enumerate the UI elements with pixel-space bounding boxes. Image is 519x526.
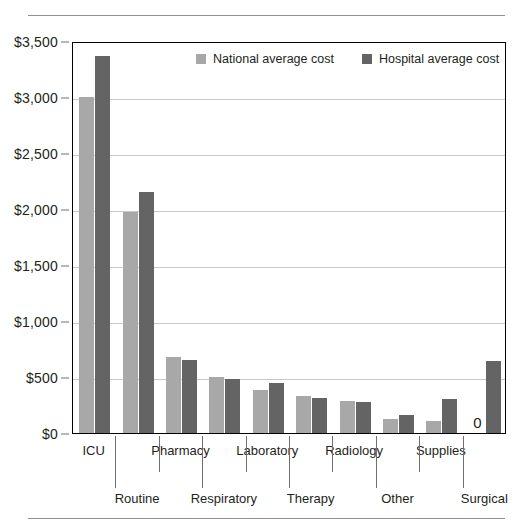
y-axis-tick-mark: [61, 42, 69, 43]
hospital-swatch-icon: [362, 54, 372, 64]
x-axis-label-surgical: Surgical: [461, 491, 508, 506]
gridline: [73, 155, 505, 156]
bar-radiology-hospital: [356, 402, 371, 433]
x-axis-label-other: Other: [381, 491, 414, 506]
bar-icu-hospital: [95, 56, 110, 433]
x-axis-label-routine: Routine: [115, 491, 160, 506]
y-axis-tick-label: $2,500: [14, 146, 58, 162]
x-axis-label-respiratory: Respiratory: [191, 491, 257, 506]
x-axis-labels: ICURoutinePharmacyRespiratoryLaboratoryT…: [0, 434, 519, 526]
x-axis-leader-line: [115, 436, 116, 488]
y-axis-tick-label: $3,000: [14, 90, 58, 106]
bar-routine-hospital: [139, 192, 154, 433]
plot-area: 0: [72, 42, 506, 434]
x-axis-leader-line: [159, 436, 160, 472]
bar-therapy-national: [296, 396, 311, 433]
y-axis-tick-label: $3,500: [14, 34, 58, 50]
bar-respiratory-hospital: [225, 379, 240, 433]
x-axis-leader-line: [202, 436, 203, 488]
y-axis-tick-mark: [61, 378, 69, 379]
y-axis-tick-label: $1,000: [14, 314, 58, 330]
legend-item-hospital: Hospital average cost: [362, 52, 499, 66]
y-axis-tick-label: $500: [26, 370, 58, 386]
zero-value-annotation: 0: [473, 414, 481, 431]
y-axis-tick-mark: [61, 210, 69, 211]
y-axis-tick-mark: [61, 322, 69, 323]
bar-supplies-national: [426, 421, 441, 433]
legend-label-hospital: Hospital average cost: [379, 52, 499, 66]
y-axis-tick-label: $2,000: [14, 202, 58, 218]
bar-radiology-national: [340, 401, 355, 433]
x-axis-leader-line: [376, 436, 377, 488]
x-axis-label-radiology: Radiology: [325, 443, 383, 458]
x-axis-leader-line: [246, 436, 247, 472]
x-axis-leader-line: [332, 436, 333, 472]
bar-other-national: [383, 419, 398, 433]
bar-chart-figure: $0$500$1,000$1,500$2,000$2,500$3,000$3,5…: [0, 0, 519, 526]
bar-respiratory-national: [209, 377, 224, 433]
bar-icu-national: [79, 97, 94, 433]
y-axis-tick-mark: [61, 154, 69, 155]
legend-item-national: National average cost: [196, 52, 334, 66]
bar-laboratory-national: [253, 390, 268, 433]
y-axis-tick-mark: [61, 98, 69, 99]
national-swatch-icon: [196, 54, 206, 64]
bar-other-hospital: [399, 415, 414, 433]
x-axis-label-icu: ICU: [82, 443, 104, 458]
bar-laboratory-hospital: [269, 383, 284, 433]
chart-legend: National average cost Hospital average c…: [196, 52, 499, 66]
bar-routine-national: [123, 212, 138, 433]
bar-therapy-hospital: [312, 398, 327, 433]
legend-label-national: National average cost: [213, 52, 334, 66]
bar-supplies-hospital: [442, 399, 457, 433]
x-axis-leader-line: [289, 436, 290, 488]
x-axis-label-supplies: Supplies: [416, 443, 466, 458]
bar-surgical-hospital: [486, 361, 501, 433]
y-axis-tick-label: $1,500: [14, 258, 58, 274]
y-axis-tick-mark: [61, 266, 69, 267]
x-axis-leader-line: [419, 436, 420, 472]
gridline: [73, 99, 505, 100]
bar-pharmacy-hospital: [182, 360, 197, 433]
x-axis-label-pharmacy: Pharmacy: [151, 443, 210, 458]
bar-pharmacy-national: [166, 357, 181, 433]
x-axis-leader-line: [463, 436, 464, 488]
top-divider-rule: [28, 15, 505, 16]
x-axis-label-therapy: Therapy: [287, 491, 335, 506]
